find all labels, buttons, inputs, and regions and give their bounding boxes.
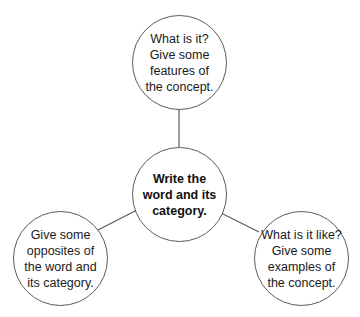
node-bottom-left: Give some opposites of the word and its … [13, 211, 108, 306]
node-center-text: Write the word and its category. [133, 171, 226, 219]
node-bottom-left-text: Give some opposites of the word and its … [14, 227, 107, 291]
node-bottom-right-text: What is it like? Give some examples of t… [255, 227, 348, 291]
node-center: Write the word and its category. [132, 147, 227, 242]
node-bottom-right: What is it like? Give some examples of t… [254, 211, 349, 306]
node-top-text: What is it? Give some features of the co… [139, 31, 221, 95]
connector-bottom-right [221, 213, 259, 232]
node-top: What is it? Give some features of the co… [132, 15, 227, 110]
